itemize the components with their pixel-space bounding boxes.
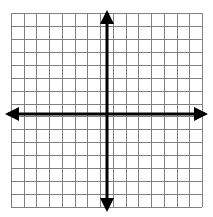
coordinate-plane-svg	[0, 0, 213, 217]
coordinate-grid-figure	[0, 0, 213, 217]
